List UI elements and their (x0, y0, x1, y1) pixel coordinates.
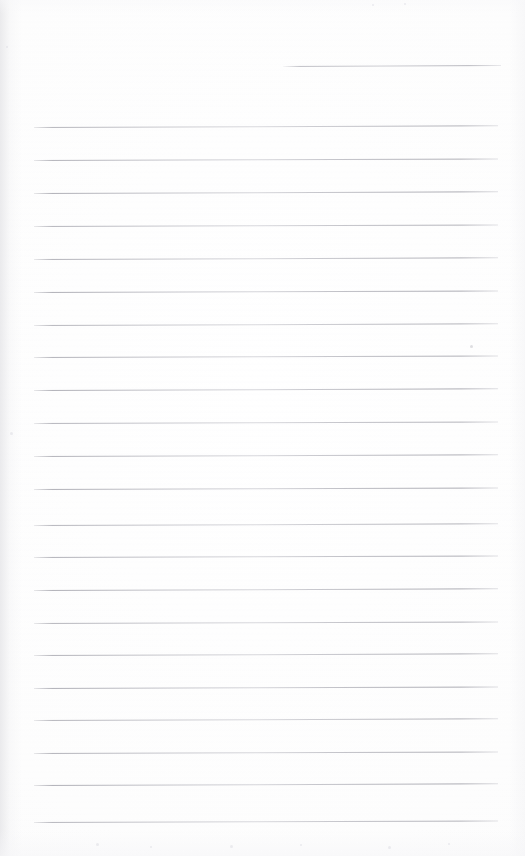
paper-background (0, 0, 525, 856)
scanned-page (0, 0, 525, 856)
scan-speck (300, 844, 302, 846)
scan-speck (230, 845, 233, 848)
scan-speck (448, 843, 450, 845)
scan-speck (6, 46, 8, 48)
scan-speck (150, 846, 152, 848)
scan-speck (404, 3, 406, 5)
scan-speck (96, 843, 99, 846)
scan-speck (470, 345, 473, 348)
scan-speck (388, 846, 391, 849)
scan-speck (372, 4, 374, 6)
scan-speck (10, 432, 13, 435)
